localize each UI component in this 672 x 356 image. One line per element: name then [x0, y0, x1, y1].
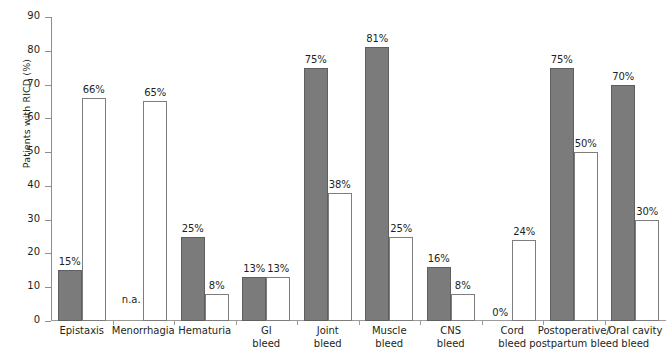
bar-hollow	[574, 152, 598, 321]
x-axis-category-label: GIbleed	[252, 325, 280, 350]
x-axis-category-label-line: bleed	[372, 338, 407, 351]
bar-value-label: 16%	[428, 253, 450, 264]
bar-value-label: 8%	[209, 280, 225, 291]
bar-hollow	[512, 240, 536, 321]
bar-hollow	[143, 101, 167, 321]
x-axis-category-label: CNSbleed	[437, 325, 465, 350]
y-axis-tick	[45, 321, 51, 322]
bar-value-label: 13%	[243, 263, 265, 274]
bar-value-label: 24%	[513, 226, 535, 237]
y-axis-tick-label: 30	[0, 213, 40, 224]
y-axis-tick-label: 40	[0, 179, 40, 190]
y-axis-tick-label: 70	[0, 78, 40, 89]
y-axis-tick-label: 60	[0, 111, 40, 122]
x-axis-category-label-line: CNS	[437, 325, 465, 338]
plot-area: 15%66%n.a.65%25%8%13%13%75%38%81%25%16%8…	[51, 17, 666, 321]
bar-filled	[304, 68, 328, 321]
bar-filled	[427, 267, 451, 321]
y-axis-tick-label: 50	[0, 145, 40, 156]
bar-hollow	[635, 220, 659, 321]
x-axis-category-label-line: Postoperative/	[529, 325, 618, 338]
bar-value-label: 0%	[492, 307, 508, 318]
x-axis-category-label-line: bleed	[252, 338, 280, 351]
y-axis-tick-label: 10	[0, 280, 40, 291]
x-axis-category-label-line: GI	[252, 325, 280, 338]
bar-na-label: n.a.	[122, 294, 141, 305]
bar-value-label: 81%	[366, 33, 388, 44]
x-axis-category-label-line: Menorrhagia	[112, 325, 175, 338]
bar-value-label: 8%	[455, 280, 471, 291]
bar-value-label: 75%	[305, 54, 327, 65]
x-axis-category-label-line: Cord	[498, 325, 526, 338]
bar-value-label: 70%	[612, 71, 634, 82]
bar-hollow	[82, 98, 106, 321]
bar-filled	[365, 47, 389, 321]
x-axis-category-label: Musclebleed	[372, 325, 407, 350]
bar-hollow	[389, 237, 413, 321]
bar-value-label: 30%	[636, 206, 658, 217]
bar-filled	[242, 277, 266, 321]
y-axis-tick-label: 20	[0, 246, 40, 257]
x-axis-category-label-line: Joint	[314, 325, 342, 338]
bar-value-label: 66%	[83, 84, 105, 95]
bar-chart: Patients with RICD (%) 01020304050607080…	[0, 0, 672, 356]
bar-filled	[181, 237, 205, 321]
x-axis-category-label-line: bleed	[437, 338, 465, 351]
bar-value-label: 65%	[144, 87, 166, 98]
x-axis-category-label-line: bleed	[608, 338, 662, 351]
bar-hollow	[205, 294, 229, 321]
y-axis-tick-label: 90	[0, 10, 40, 21]
bar-value-label: 15%	[59, 256, 81, 267]
x-axis-category-label-line: Hematuria	[178, 325, 231, 338]
bar-filled	[611, 85, 635, 321]
x-axis-category-label: Postoperative/postpartum bleed	[529, 325, 618, 350]
bar-hollow	[328, 193, 352, 321]
bar-value-label: 25%	[182, 223, 204, 234]
x-axis-category-label-line: bleed	[498, 338, 526, 351]
x-axis-category-label-line: postpartum bleed	[529, 338, 618, 351]
x-axis-category-label: Jointbleed	[314, 325, 342, 350]
y-axis-tick-label: 0	[0, 314, 40, 325]
x-axis-category-label-line: Oral cavity	[608, 325, 662, 338]
bar-hollow	[451, 294, 475, 321]
y-axis-tick-label: 80	[0, 44, 40, 55]
x-axis-category-label-line: Epistaxis	[59, 325, 104, 338]
x-axis-category-label: Hematuria	[178, 325, 231, 338]
bar-value-label: 25%	[390, 223, 412, 234]
x-axis-category-label: Epistaxis	[59, 325, 104, 338]
bar-value-label: 38%	[329, 179, 351, 190]
x-axis-category-label-line: bleed	[314, 338, 342, 351]
x-axis-category-label: Menorrhagia	[112, 325, 175, 338]
x-axis-category-label: Oral cavitybleed	[608, 325, 662, 350]
bar-value-label: 50%	[575, 138, 597, 149]
x-axis-category-label: Cordbleed	[498, 325, 526, 350]
bar-filled	[550, 68, 574, 321]
bar-value-label: 75%	[551, 54, 573, 65]
x-axis-category-label-line: Muscle	[372, 325, 407, 338]
bar-hollow	[266, 277, 290, 321]
bar-value-label: 13%	[267, 263, 289, 274]
bar-filled	[58, 270, 82, 321]
